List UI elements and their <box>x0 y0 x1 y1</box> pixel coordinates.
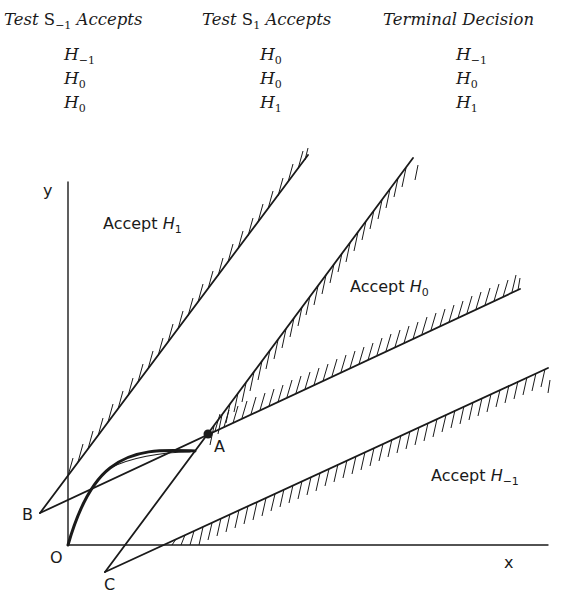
region-subscript: 1 <box>175 223 182 236</box>
x-axis-label: x <box>504 553 513 572</box>
y-axis-label: y <box>43 181 52 200</box>
region-prefix: Accept <box>103 214 163 233</box>
point-b-label: B <box>22 505 33 524</box>
hatch-h-minus-1 <box>172 369 550 545</box>
point-a-label: A <box>214 437 225 456</box>
decision-region-diagram: y x O A B C Accept H1 Accept H0 Accept H… <box>0 0 572 606</box>
region-prefix: Accept <box>350 277 410 296</box>
region-label-accept-h0: Accept H0 <box>350 277 429 299</box>
region-symbol: H <box>163 214 175 233</box>
point-a-dot <box>204 430 213 439</box>
region-label-accept-h-minus-1: Accept H−1 <box>431 466 519 488</box>
region-subscript: 0 <box>422 286 429 299</box>
point-o-label: O <box>50 548 63 567</box>
region-prefix: Accept <box>431 466 491 485</box>
region-subscript: −1 <box>503 475 519 488</box>
region-symbol: H <box>410 277 422 296</box>
sample-path-curve <box>68 450 195 545</box>
hatch-ca <box>210 165 418 445</box>
point-c-label: C <box>104 575 115 594</box>
region-label-accept-h1: Accept H1 <box>103 214 182 236</box>
hatch-ba <box>215 275 520 431</box>
region-symbol: H <box>491 466 503 485</box>
